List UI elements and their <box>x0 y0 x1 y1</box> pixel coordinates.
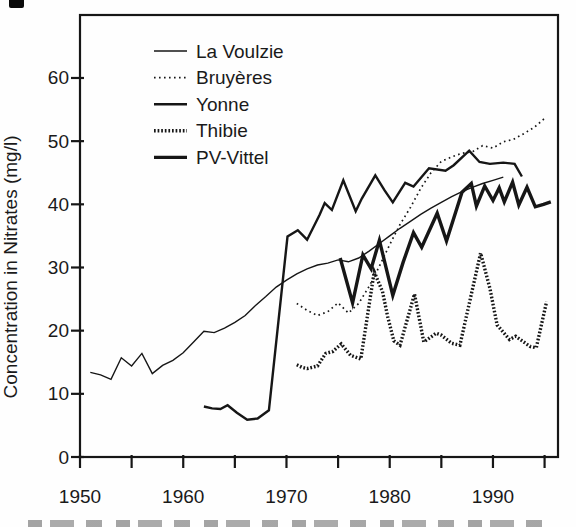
legend-label-pv-vittel: PV-Vittel <box>196 147 269 168</box>
series-line-bruy-res <box>297 118 545 315</box>
plot-frame <box>80 15 558 457</box>
legend-label-bruy-res: Bruyères <box>196 67 272 88</box>
legend-item-thibie: Thibie <box>154 120 248 141</box>
legend-label-la-voulzie: La Voulzie <box>196 41 284 62</box>
series-line-thibie <box>297 253 547 369</box>
y-tick-label: 40 <box>48 194 69 215</box>
x-tick-label: 1980 <box>369 486 411 507</box>
x-axis-tick-labels: 19501960197019801990 <box>59 486 514 507</box>
legend: La VoulzieBruyèresYonneThibiePV-Vittel <box>154 41 284 168</box>
y-axis-tick-labels: 0102030405060 <box>48 67 69 467</box>
series-lines <box>90 118 551 419</box>
y-tick-label: 50 <box>48 131 69 152</box>
legend-item-la-voulzie: La Voulzie <box>154 41 284 62</box>
legend-item-bruy-res: Bruyères <box>154 67 272 88</box>
y-tick-label: 20 <box>48 320 69 341</box>
cropped-caption-remnant <box>28 520 556 527</box>
y-tick-label: 0 <box>58 447 69 468</box>
legend-label-thibie: Thibie <box>196 120 248 141</box>
y-axis-ticks <box>71 78 84 457</box>
x-tick-label: 1970 <box>265 486 307 507</box>
series-line-la-voulzie <box>90 177 503 379</box>
x-tick-label: 1990 <box>472 486 514 507</box>
legend-item-yonne: Yonne <box>154 94 249 115</box>
nitrate-concentration-figure: 0102030405060 19501960197019801990 Conce… <box>0 0 576 527</box>
y-tick-label: 30 <box>48 257 69 278</box>
x-tick-label: 1950 <box>59 486 101 507</box>
y-tick-label: 60 <box>48 67 69 88</box>
scan-artifact-mark <box>9 0 24 8</box>
y-axis-title: Concentration in Nitrates (mg/l) <box>0 136 21 399</box>
legend-label-yonne: Yonne <box>196 94 249 115</box>
nitrate-chart: 0102030405060 19501960197019801990 Conce… <box>0 0 576 527</box>
legend-item-pv-vittel: PV-Vittel <box>154 147 269 168</box>
y-tick-label: 10 <box>48 383 69 404</box>
x-tick-label: 1960 <box>162 486 204 507</box>
